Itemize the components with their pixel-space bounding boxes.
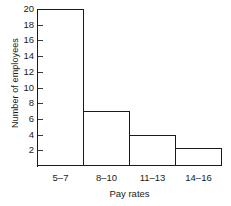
- y-tick-label: 20: [14, 4, 34, 14]
- x-tick-label: 11–13: [129, 172, 176, 183]
- y-tick-label: 18: [14, 20, 34, 30]
- y-tick-label: 12: [14, 67, 34, 77]
- x-tick-label: 5–7: [37, 172, 84, 183]
- x-tick-label: 8–10: [83, 172, 130, 183]
- y-axis-tick-labels: 20 18 16 14 12 10 8 6 4 2: [14, 0, 34, 206]
- y-tick-label: 2: [14, 145, 34, 155]
- x-axis-title: Pay rates: [37, 188, 222, 199]
- plot-area: [37, 9, 221, 166]
- y-tick-label: 10: [14, 83, 34, 93]
- x-axis-tick-labels: 5–7 8–10 11–13 14–16: [37, 172, 222, 186]
- y-tick-label: 8: [14, 98, 34, 108]
- y-tick-label: 14: [14, 51, 34, 61]
- bar-2: [129, 135, 176, 166]
- y-tick-label: 4: [14, 130, 34, 140]
- bar-0: [37, 9, 84, 166]
- bar-3: [175, 148, 222, 166]
- x-tick-label: 14–16: [175, 172, 222, 183]
- y-tick-label: 16: [14, 35, 34, 45]
- bar-1: [83, 111, 130, 166]
- histogram-chart: Number of employees 20 18 16 14 12 10 8 …: [0, 0, 231, 206]
- y-tick-label: 6: [14, 114, 34, 124]
